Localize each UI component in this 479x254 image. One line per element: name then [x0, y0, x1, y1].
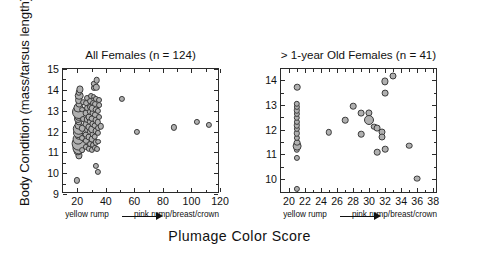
y-minor-tick [216, 79, 219, 80]
x-tick [417, 69, 418, 73]
figure-container: Body Condition (mass/tarsus length) All … [0, 0, 479, 254]
y-axis-label: Body Condition (mass/tarsus length) [17, 0, 32, 212]
x-tick [220, 188, 221, 192]
data-point [382, 78, 389, 85]
y-tick [214, 152, 218, 153]
y-tick-label: 9 [53, 188, 59, 200]
x-tick [401, 69, 402, 73]
x-minor-tick [361, 190, 362, 193]
x-minor-tick [149, 190, 150, 193]
x-minor-tick [345, 69, 346, 72]
x-tick [289, 188, 290, 192]
y-tick-label: 10 [265, 173, 277, 185]
y-minor-tick [216, 184, 219, 185]
x-tick [77, 188, 78, 192]
panel-older-females: > 1-year Old Females (n = 41) 1011121314… [280, 68, 437, 193]
y-tick-label: 12 [265, 124, 277, 136]
x-tick-label: 20 [283, 195, 295, 207]
x-minor-tick [425, 69, 426, 72]
y-minor-tick [281, 167, 284, 168]
data-point [93, 163, 99, 169]
x-tick [163, 188, 164, 192]
y-tick [281, 105, 285, 106]
y-minor-tick [434, 142, 437, 143]
x-tick [385, 188, 386, 192]
data-point [350, 103, 357, 110]
data-point [390, 72, 397, 79]
x-tick-label: 30 [363, 195, 375, 207]
y-tick [432, 179, 436, 180]
y-tick-label: 14 [47, 84, 59, 96]
x-minor-tick [313, 190, 314, 193]
x-axis-label: Plumage Color Score [0, 228, 479, 244]
y-tick-label: 13 [47, 105, 59, 117]
x-tick [337, 69, 338, 73]
y-tick [281, 80, 285, 81]
y-minor-tick [434, 117, 437, 118]
x-minor-tick [92, 190, 93, 193]
y-tick-label: 11 [266, 148, 277, 160]
x-tick-label: 24 [315, 195, 327, 207]
data-point [294, 185, 300, 191]
x-minor-tick [425, 190, 426, 193]
x-minor-tick [377, 69, 378, 72]
y-minor-tick [63, 79, 66, 80]
x-tick [220, 69, 221, 73]
x-tick [289, 69, 290, 73]
y-tick [214, 173, 218, 174]
data-point [119, 96, 125, 102]
data-point [414, 175, 421, 182]
y-tick [214, 90, 218, 91]
x-tick [369, 69, 370, 73]
y-tick-label: 13 [265, 99, 277, 111]
x-tick-label: 38 [427, 195, 439, 207]
data-point [358, 131, 365, 138]
y-minor-tick [63, 184, 66, 185]
y-minor-tick [216, 121, 219, 122]
data-point [342, 117, 349, 124]
gradient-legend-all-females: yellow rump pink rump/breast/crown [62, 210, 219, 223]
x-tick [369, 188, 370, 192]
data-point [133, 129, 139, 135]
y-minor-tick [63, 142, 66, 143]
y-tick [432, 154, 436, 155]
x-tick [191, 69, 192, 73]
y-tick [432, 105, 436, 106]
panel-title-all-females: All Females (n = 124) [62, 48, 219, 61]
y-tick [63, 132, 67, 133]
y-tick [63, 111, 67, 112]
y-tick-label: 10 [47, 167, 59, 179]
data-point [358, 109, 365, 116]
x-minor-tick [177, 190, 178, 193]
x-minor-tick [149, 69, 150, 72]
x-minor-tick [177, 69, 178, 72]
y-minor-tick [216, 142, 219, 143]
x-tick [401, 188, 402, 192]
x-tick-label: 60 [128, 195, 140, 207]
x-minor-tick [393, 190, 394, 193]
y-tick [63, 173, 67, 174]
data-point [98, 123, 104, 129]
y-minor-tick [216, 100, 219, 101]
y-minor-tick [63, 163, 66, 164]
x-minor-tick [206, 190, 207, 193]
data-point [94, 130, 100, 136]
y-tick [214, 132, 218, 133]
data-point [194, 119, 200, 125]
data-point [378, 133, 385, 140]
data-point [206, 122, 212, 128]
x-tick [337, 188, 338, 192]
y-tick [432, 130, 436, 131]
x-tick-label: 22 [299, 195, 311, 207]
plot-axes-all-females: 910111213141520406080100120 [62, 68, 219, 193]
x-tick [191, 188, 192, 192]
x-tick-label: 28 [347, 195, 359, 207]
y-tick [63, 152, 67, 153]
x-tick-label: 32 [379, 195, 391, 207]
x-tick [106, 188, 107, 192]
x-minor-tick [409, 190, 410, 193]
y-tick [63, 194, 67, 195]
x-tick [417, 188, 418, 192]
y-minor-tick [281, 142, 284, 143]
y-minor-tick [281, 117, 284, 118]
